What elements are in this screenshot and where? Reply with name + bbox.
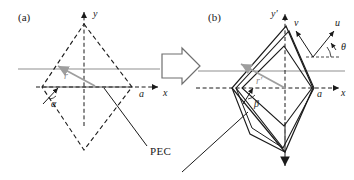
vertex-a-label-b: a: [317, 89, 322, 99]
u-axis-label: u: [335, 18, 340, 28]
panel-a-label: (a): [18, 12, 30, 23]
figure-canvas: [0, 0, 354, 180]
rhombus-transformed-outer-b: [232, 26, 313, 152]
angle-alpha-label-a: α: [51, 99, 56, 109]
rhombus-transformed-inner-b: [236, 31, 314, 148]
y-axis-label-a: y: [93, 9, 97, 19]
radius-vector-label-b: r′: [256, 76, 262, 86]
panel-a-graphics: [18, 12, 160, 150]
vertex-a-label-a: a: [139, 89, 144, 99]
u-axis-arrow: [313, 31, 334, 57]
pec-leader-b: [182, 112, 248, 172]
angle-theta-label: θ: [341, 42, 346, 52]
v-axis-label: v: [294, 18, 298, 28]
x-axis-label-b: x: [341, 88, 345, 98]
radius-vector-label-a: r: [64, 71, 68, 81]
panel-b-label: (b): [208, 12, 221, 23]
uv-frame-graphics: [296, 31, 341, 57]
pec-label: PEC: [150, 146, 171, 157]
x-axis-label-a: x: [163, 88, 167, 98]
angle-beta-label-b: β: [254, 99, 259, 109]
figure-root: (a) y x r α a (b) y′ x r′ β a u v θ PEC: [0, 0, 354, 180]
y-axis-label-b: y′: [271, 9, 278, 19]
transform-arrow-graphic: [162, 48, 200, 84]
angle-theta-arrow: [331, 43, 336, 50]
angle-theta-arc: [327, 47, 331, 57]
